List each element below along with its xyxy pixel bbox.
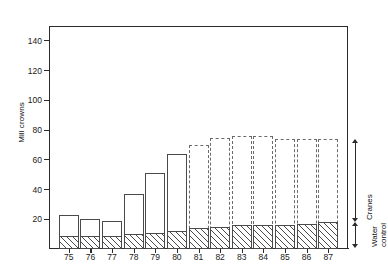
y-tick-label-40: 40: [14, 185, 42, 195]
x-tick-label-81: 81: [187, 252, 211, 262]
bar-86: [297, 26, 317, 249]
x-tick-label-80: 80: [165, 252, 189, 262]
x-tick-label-86: 86: [295, 252, 319, 262]
x-tick-label-79: 79: [143, 252, 167, 262]
bar-80: [167, 26, 187, 249]
bar-segment-water-control-83: [232, 225, 252, 249]
bar-75: [59, 26, 79, 249]
bar-segment-water-control-79: [145, 233, 165, 249]
bar-segment-water-control-80: [167, 231, 187, 249]
x-tick-label-77: 77: [100, 252, 124, 262]
cranes-bracket-line: [355, 141, 356, 220]
bar-85: [275, 26, 295, 249]
bar-77: [102, 26, 122, 249]
y-tick-label-60: 60: [14, 155, 42, 165]
x-tick-label-83: 83: [230, 252, 254, 262]
bar-79: [145, 26, 165, 249]
bar-segment-water-control-84: [253, 225, 273, 249]
bar-82: [210, 26, 230, 249]
y-tick-label-140: 140: [14, 36, 42, 46]
x-tick-label-87: 87: [316, 252, 340, 262]
bar-segment-water-control-77: [102, 236, 122, 249]
bar-segment-water-control-82: [210, 227, 230, 249]
x-tick-label-82: 82: [208, 252, 232, 262]
y-tick-label-100: 100: [14, 95, 42, 105]
bar-segment-water-control-76: [80, 236, 100, 249]
x-tick-label-75: 75: [57, 252, 81, 262]
x-tick-label-76: 76: [78, 252, 102, 262]
bar-87: [318, 26, 338, 249]
bar-group: [49, 26, 348, 249]
x-tick-label-84: 84: [251, 252, 275, 262]
water-control-bracket-arrow-up: [352, 222, 358, 226]
water-control-bracket-label: Water control: [371, 203, 388, 247]
x-tick-label-78: 78: [122, 252, 146, 262]
y-tick-label-80: 80: [14, 125, 42, 135]
bar-76: [80, 26, 100, 249]
bar-segment-water-control-87: [318, 222, 338, 249]
bar-83: [232, 26, 252, 249]
bar-84: [253, 26, 273, 249]
x-tick-label-85: 85: [273, 252, 297, 262]
water-control-bracket-arrow-down: [352, 244, 358, 248]
bar-segment-water-control-85: [275, 225, 295, 249]
y-tick-label-120: 120: [14, 66, 42, 76]
bar-segment-water-control-75: [59, 236, 79, 249]
cranes-bracket-arrow-down: [352, 218, 358, 222]
bar-78: [124, 26, 144, 249]
cranes-bracket-arrow-up: [352, 139, 358, 143]
bar-81: [189, 26, 209, 249]
bar-segment-water-control-78: [124, 234, 144, 249]
y-tick-label-20: 20: [14, 214, 42, 224]
bar-segment-water-control-81: [189, 228, 209, 249]
bar-segment-water-control-86: [297, 224, 317, 249]
